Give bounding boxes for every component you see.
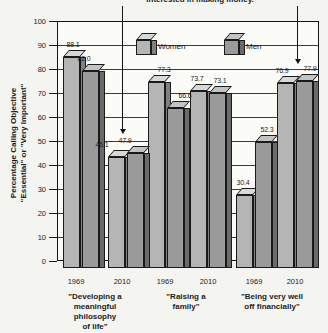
callout-line-left [122, 6, 123, 129]
group-caption-line: "Being very well [217, 292, 327, 302]
bar-women-top [148, 75, 171, 82]
bar-men-top [127, 146, 150, 153]
value-label-men: 77.9 [297, 65, 323, 72]
y-tick [49, 237, 57, 238]
value-label-women: 76.9 [269, 67, 295, 74]
y-tick-label: 60 [24, 113, 46, 122]
callout-arrow-right [295, 59, 301, 64]
value-label-women: 77.3 [151, 66, 177, 73]
bar-women-front [148, 82, 165, 268]
bar-women-front [236, 195, 253, 268]
legend-label-men: Men [246, 42, 262, 51]
legend-cube-men-side [239, 40, 245, 55]
legend-cube-women-side [151, 40, 157, 55]
y-tick [49, 261, 57, 262]
group-caption-line: philosophy [40, 312, 150, 322]
legend-cube-women-front [136, 40, 151, 55]
bar-men-front [296, 81, 313, 268]
bar-men-front [209, 93, 226, 268]
clipped-caption-text: interested in making money. [90, 0, 310, 5]
bar-men-front [255, 142, 272, 268]
legend-cube-women-top [136, 33, 157, 40]
bar-men-top [209, 86, 232, 93]
value-label-women: 30.4 [230, 179, 256, 186]
callout-line-right [297, 6, 298, 59]
legend-label-women: Women [158, 42, 185, 51]
x-year-label: 1969 [234, 277, 274, 286]
y-tick [49, 69, 57, 70]
y-tick-label: 10 [24, 233, 46, 242]
y-tick [49, 45, 57, 46]
bar-women-front [108, 157, 125, 268]
group-caption-line: of life" [40, 322, 150, 332]
y-tick [49, 189, 57, 190]
bar-men-front [167, 108, 184, 268]
y-tick [49, 117, 57, 118]
group-caption: "Being very welloff financially" [217, 292, 327, 312]
bar-men-side [144, 153, 150, 268]
y-tick-label: 20 [24, 209, 46, 218]
y-tick [49, 21, 57, 22]
y-tick [49, 93, 57, 94]
group-caption-line: off financially" [217, 302, 327, 312]
legend-cube-men-top [224, 33, 245, 40]
bar-men-side [99, 71, 105, 268]
x-year-label: 2010 [188, 277, 228, 286]
y-tick-label: 80 [24, 65, 46, 74]
bar-women-front [277, 83, 294, 268]
value-label-men: 52.3 [254, 126, 280, 133]
callout-arrow-left [120, 129, 126, 134]
value-label-women: 88.1 [60, 41, 86, 48]
bar-men-side [313, 81, 319, 268]
y-tick-label: 30 [24, 185, 46, 194]
chart-page: interested in making money. Percentage C… [0, 0, 328, 333]
x-year-label: 2010 [275, 277, 315, 286]
bar-men-side [272, 142, 278, 268]
bar-women-top [190, 84, 213, 91]
y-tick-label: 40 [24, 161, 46, 170]
x-year-label: 1969 [56, 277, 96, 286]
value-label-men: 73.1 [207, 77, 233, 84]
value-label-men: 47.9 [112, 137, 138, 144]
bar-men-front [127, 153, 144, 268]
bar-men-top [167, 101, 190, 108]
y-tick-label: 100 [24, 17, 46, 26]
y-tick-label: 0 [24, 257, 46, 266]
bar-women-front [63, 57, 80, 268]
x-year-label: 1969 [145, 277, 185, 286]
gridline [58, 45, 318, 46]
clipped-caption: interested in making money. [90, 0, 310, 5]
value-label-men: 82.0 [71, 55, 97, 62]
value-label-men: 66.6 [172, 92, 198, 99]
y-tick-label: 90 [24, 41, 46, 50]
y-tick-label: 70 [24, 89, 46, 98]
legend-cube-men-front [224, 40, 239, 55]
y-tick [49, 165, 57, 166]
bar-men-top [82, 64, 105, 71]
bar-men-side [184, 108, 190, 268]
y-tick [49, 213, 57, 214]
y-tick [49, 141, 57, 142]
bar-men-front [82, 71, 99, 268]
x-year-label: 2010 [102, 277, 142, 286]
y-tick-label: 50 [24, 137, 46, 146]
bar-men-top [296, 74, 319, 81]
bar-women-front [190, 91, 207, 268]
